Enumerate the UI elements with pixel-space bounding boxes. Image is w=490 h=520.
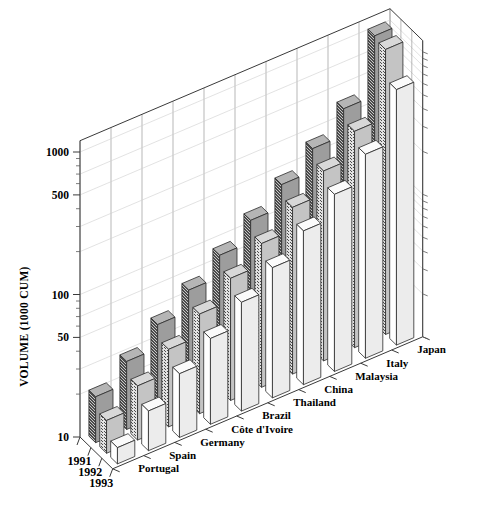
x-axis-tick-label: 1993 xyxy=(89,476,113,490)
z-wall-tick xyxy=(423,294,428,296)
bar xyxy=(266,254,290,398)
z-axis-tick xyxy=(144,456,151,459)
y-axis-tick-label: 500 xyxy=(52,189,70,201)
bar-side-face xyxy=(303,224,320,385)
z-wall-tick xyxy=(423,52,428,54)
bar-front-face xyxy=(328,188,335,372)
z-wall-tick xyxy=(423,194,428,196)
z-axis-tick-label: Côte d'Ivoire xyxy=(231,423,293,435)
bar-front-face xyxy=(359,148,366,359)
z-axis-tick xyxy=(330,376,337,379)
bar-front-face xyxy=(390,83,397,345)
z-axis-tick-label: China xyxy=(324,383,353,395)
three-d-bar-chart: 10501005001000VOLUME (1000 CUM)199119921… xyxy=(0,0,490,520)
chart-figure: 10501005001000VOLUME (1000 CUM)199119921… xyxy=(0,0,490,520)
z-axis-tick-label: Portugal xyxy=(138,462,179,474)
z-wall-tick xyxy=(423,226,428,228)
z-wall-tick xyxy=(423,95,428,97)
bar-front-face xyxy=(297,224,304,384)
bar-side-face xyxy=(272,260,289,398)
z-axis-tick xyxy=(392,350,399,353)
y-axis-tick-label: 10 xyxy=(58,431,70,443)
bar-side-face xyxy=(148,404,165,451)
bar xyxy=(142,397,166,451)
bar-side-face xyxy=(179,366,196,437)
z-wall-tick xyxy=(423,216,428,218)
bar xyxy=(359,140,383,358)
z-axis-tick-label: Spain xyxy=(169,449,196,461)
bar-side-face xyxy=(241,295,258,411)
z-axis-tick-label: Brazil xyxy=(262,409,291,421)
z-wall-tick xyxy=(423,208,428,210)
bar-side-face xyxy=(396,82,413,345)
z-axis-tick-label: Germany xyxy=(200,436,245,448)
bar-front-face xyxy=(131,379,138,440)
bar xyxy=(328,180,352,371)
z-wall-tick xyxy=(423,251,428,253)
z-axis-tick-label: Italy xyxy=(386,357,409,369)
z-axis-tick xyxy=(268,403,275,406)
y-axis-tick-label: 50 xyxy=(58,331,70,343)
y-axis-title: VOLUME (1000 CUM) xyxy=(18,266,31,387)
z-wall-tick xyxy=(423,237,428,239)
x-axis-tick xyxy=(77,437,80,445)
z-wall-tick xyxy=(423,109,428,111)
z-axis-tick-label: Malaysia xyxy=(355,370,398,382)
z-wall-tick xyxy=(423,58,428,60)
z-wall-tick xyxy=(423,269,428,271)
z-axis-tick xyxy=(361,363,368,366)
z-axis-tick-label: Thailand xyxy=(293,396,336,408)
bar-side-face xyxy=(365,147,382,358)
z-axis-tick xyxy=(175,442,182,445)
bar-front-face xyxy=(173,367,180,437)
z-wall-tick xyxy=(423,74,428,76)
z-wall-tick xyxy=(423,126,428,128)
bar-front-face xyxy=(204,332,211,424)
bar-front-face xyxy=(142,404,149,450)
z-axis-tick xyxy=(299,390,306,393)
z-axis-tick xyxy=(237,416,244,419)
bar xyxy=(204,325,228,425)
z-wall-tick xyxy=(423,337,428,339)
bar xyxy=(297,217,321,385)
z-wall-tick xyxy=(423,66,428,68)
z-wall-tick xyxy=(423,83,428,85)
z-axis-tick xyxy=(206,429,213,432)
z-wall-tick xyxy=(423,151,428,153)
bar-front-face xyxy=(100,414,107,453)
bar-side-face xyxy=(334,187,351,372)
bar-side-face xyxy=(210,331,227,424)
z-wall-tick xyxy=(423,201,428,203)
bar xyxy=(235,288,259,411)
y-axis-tick-label: 1000 xyxy=(46,146,69,158)
bar-front-face xyxy=(89,390,96,442)
bar xyxy=(173,360,197,438)
y-axis-tick-label: 100 xyxy=(52,289,70,301)
bar-front-face xyxy=(235,296,242,411)
z-axis-tick-label: Japan xyxy=(417,343,446,355)
z-axis-tick xyxy=(113,469,120,472)
bar-front-face xyxy=(266,261,273,398)
bar xyxy=(390,76,414,345)
